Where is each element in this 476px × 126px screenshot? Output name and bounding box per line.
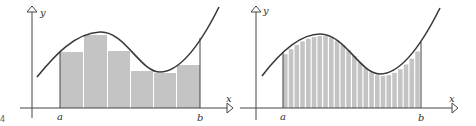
- rectangle: [346, 50, 351, 108]
- x-axis-label: x: [226, 93, 232, 104]
- rectangle: [398, 69, 403, 108]
- rectangle: [306, 39, 311, 108]
- rectangle: [60, 52, 83, 108]
- rectangle: [392, 73, 397, 108]
- rectangle: [154, 73, 176, 108]
- b-label: b: [197, 112, 203, 123]
- rectangle: [375, 75, 380, 108]
- a-label: a: [57, 111, 63, 122]
- rectangle: [381, 76, 386, 108]
- rectangle: [108, 51, 130, 108]
- rectangle: [289, 49, 294, 108]
- right-rectangles: [283, 36, 420, 108]
- page-fragment: 4: [0, 115, 5, 124]
- left-panel: y x a b 4: [0, 6, 233, 124]
- x-axis-label: x: [449, 93, 455, 104]
- riemann-sum-figure: y x a b 4 y x a b: [0, 0, 476, 126]
- rectangle: [341, 45, 346, 108]
- right-panel: y x a b: [240, 5, 458, 123]
- rectangle: [369, 72, 374, 108]
- y-axis-label: y: [39, 7, 46, 18]
- y-axis-arrow-icon: [251, 6, 261, 12]
- rectangle: [358, 62, 363, 108]
- rectangle: [410, 59, 415, 108]
- y-axis-arrow-icon: [27, 6, 37, 12]
- rectangle: [352, 56, 357, 108]
- rectangle: [84, 35, 107, 108]
- left-rectangles: [60, 35, 200, 108]
- b-label: b: [418, 112, 424, 123]
- rectangle: [295, 45, 300, 108]
- y-axis-label: y: [262, 5, 269, 16]
- rectangle: [323, 36, 328, 108]
- rectangle: [300, 41, 305, 108]
- rectangle: [131, 71, 153, 108]
- a-label: a: [280, 111, 286, 122]
- rectangle: [329, 38, 334, 108]
- rectangle: [335, 41, 340, 108]
- x-axis-arrow-icon: [452, 103, 458, 113]
- rectangle: [312, 37, 317, 108]
- rectangle: [415, 52, 420, 108]
- x-axis-arrow-icon: [227, 103, 233, 113]
- rectangle: [177, 65, 200, 108]
- rectangle: [318, 36, 323, 108]
- rectangle: [404, 65, 409, 108]
- rectangle: [387, 75, 392, 108]
- rectangle: [364, 68, 369, 108]
- rectangle: [283, 54, 288, 108]
